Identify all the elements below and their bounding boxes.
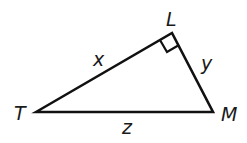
vertex-label-T: T (14, 102, 27, 124)
vertex-label-L: L (166, 8, 177, 30)
triangle-TLM (36, 33, 213, 112)
vertex-label-M: M (221, 103, 237, 125)
right-triangle-diagram: L T M x y z (0, 0, 247, 143)
side-label-x: x (92, 48, 105, 70)
side-label-y: y (200, 52, 213, 74)
side-label-z: z (121, 116, 133, 138)
